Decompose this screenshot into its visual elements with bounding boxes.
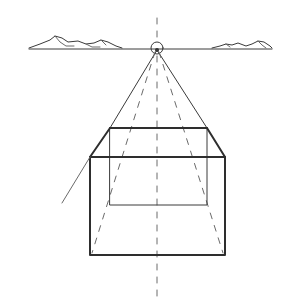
dashed-converging-right	[159, 52, 223, 253]
top-edge-left	[90, 128, 110, 157]
top-edge-right	[207, 128, 225, 157]
converging-line-right	[157, 50, 207, 128]
guide-line	[62, 157, 90, 203]
mountains-left	[29, 36, 122, 48]
converging-line-left	[110, 50, 157, 128]
perspective-drawing	[0, 0, 287, 306]
dashed-converging-left	[92, 52, 155, 253]
mountains-right	[212, 41, 272, 48]
back-face	[110, 128, 207, 205]
